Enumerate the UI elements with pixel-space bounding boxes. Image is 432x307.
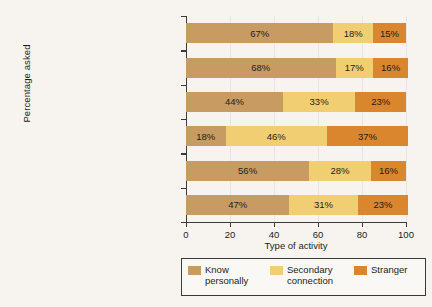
bar-segment: 18% <box>186 126 226 146</box>
x-axis-tick <box>230 222 231 227</box>
x-axis-tick <box>406 222 407 227</box>
x-axis-tick <box>274 222 275 227</box>
legend-swatch-icon <box>270 266 283 275</box>
gridline <box>406 16 407 222</box>
bar-segment: 68% <box>186 58 336 78</box>
bar-segment: 16% <box>371 161 406 181</box>
x-axis-tick <box>186 222 187 227</box>
bar-segment: 28% <box>309 161 371 181</box>
legend-label: Stranger <box>371 264 407 275</box>
x-axis-tick <box>318 222 319 227</box>
bar-row: 67%18%15% <box>186 23 406 43</box>
bar-segment: 23% <box>358 195 409 215</box>
y-axis-tick <box>181 222 186 223</box>
bar-segment: 31% <box>289 195 357 215</box>
y-axis-tick <box>181 188 186 189</box>
x-axis-line <box>186 222 406 223</box>
x-axis-tick-label: 100 <box>398 229 414 240</box>
gridline <box>274 16 275 222</box>
x-axis-tick-label: 20 <box>225 229 236 240</box>
x-axis-tick-label: 0 <box>183 229 188 240</box>
bar-segment: 16% <box>373 58 408 78</box>
gridline <box>230 16 231 222</box>
bar-segment: 67% <box>186 23 333 43</box>
bar-segment: 18% <box>333 23 373 43</box>
bar-row: 56%28%16% <box>186 161 406 181</box>
stacked-bar-chart: Percentage asked 02040608010067%18%15%68… <box>0 0 432 307</box>
gridline <box>318 16 319 222</box>
x-axis-title: Type of activity <box>186 240 406 251</box>
legend-item[interactable]: Stranger <box>354 264 407 275</box>
x-axis-tick-label: 40 <box>269 229 280 240</box>
legend-swatch-icon <box>354 266 367 275</box>
legend-swatch-icon <box>188 266 201 275</box>
bar-segment: 44% <box>186 92 283 112</box>
bar-segment: 37% <box>327 126 408 146</box>
plot-area: 02040608010067%18%15%68%17%16%44%33%23%1… <box>186 16 406 222</box>
x-axis-tick <box>362 222 363 227</box>
legend-item[interactable]: Secondary connection <box>270 264 367 286</box>
legend-item[interactable]: Know personally <box>188 264 267 286</box>
y-axis-line <box>186 16 187 222</box>
bar-segment: 23% <box>355 92 406 112</box>
x-axis-tick-label: 60 <box>313 229 324 240</box>
bar-segment: 17% <box>336 58 373 78</box>
y-axis-tick <box>181 50 186 51</box>
y-axis-tick <box>181 85 186 86</box>
y-axis-title: Percentage asked <box>21 14 32 154</box>
bar-segment: 15% <box>373 23 406 43</box>
bar-row: 18%46%37% <box>186 126 406 146</box>
bar-segment: 47% <box>186 195 289 215</box>
bar-row: 68%17%16% <box>186 58 406 78</box>
gridline <box>362 16 363 222</box>
chart-legend: Know personallySecondary connectionStran… <box>181 258 426 296</box>
bar-segment: 46% <box>226 126 327 146</box>
y-axis-tick <box>181 16 186 17</box>
x-axis-tick-label: 80 <box>357 229 368 240</box>
bar-segment: 56% <box>186 161 309 181</box>
bar-row: 44%33%23% <box>186 92 406 112</box>
bar-segment: 33% <box>283 92 356 112</box>
legend-label: Know personally <box>205 264 267 286</box>
y-axis-tick <box>181 119 186 120</box>
bar-row: 47%31%23% <box>186 195 406 215</box>
y-axis-tick <box>181 153 186 154</box>
